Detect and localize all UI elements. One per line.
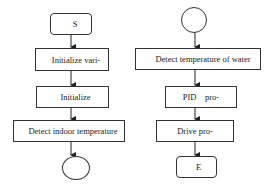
start-label: S: [65, 19, 78, 29]
start-node: S: [50, 13, 92, 35]
initialize-variables-node: Initialize vari-: [35, 48, 109, 71]
drive-process-label: Drive pro-: [177, 126, 213, 136]
drive-process-node: Drive pro-: [156, 120, 234, 142]
initialize-node: Initialize: [36, 86, 109, 108]
end-node: E: [176, 156, 217, 178]
end-label: E: [192, 162, 201, 172]
detect-water-temperature-label: Detect temperature of water: [145, 54, 250, 64]
connector-in-circle: [181, 7, 207, 33]
initialize-variables-label: Initialize vari-: [44, 55, 100, 65]
pid-process-label: PID pro-: [183, 92, 219, 102]
detect-indoor-temperature-node: Detect indoor temperature: [13, 120, 125, 142]
connector-out-circle: [62, 156, 90, 180]
detect-indoor-temperature-label: Detect indoor temperature: [20, 126, 117, 136]
detect-water-temperature-node: Detect temperature of water: [135, 48, 261, 70]
pid-process-node: PID pro-: [165, 86, 237, 108]
initialize-label: Initialize: [54, 92, 90, 102]
